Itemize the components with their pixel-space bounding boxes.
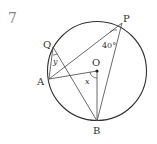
angle-label-O: x [85,77,90,86]
problem-number: 7 [8,10,17,26]
angle-arc-O [90,72,97,78]
angle-arc-Q [53,54,57,55]
angle-label-P: 40° [102,41,116,50]
label-P: P [123,13,130,24]
chord-PB [97,23,122,121]
label-O: O [92,57,100,68]
geometry-diagram: 7 Q P A O B 40° y x [0,0,157,144]
label-A: A [36,76,45,87]
label-B: B [93,125,100,136]
label-Q: Q [43,39,51,50]
angle-label-Q: y [52,57,58,66]
center-dot [95,69,98,72]
chord-QB [53,47,97,121]
